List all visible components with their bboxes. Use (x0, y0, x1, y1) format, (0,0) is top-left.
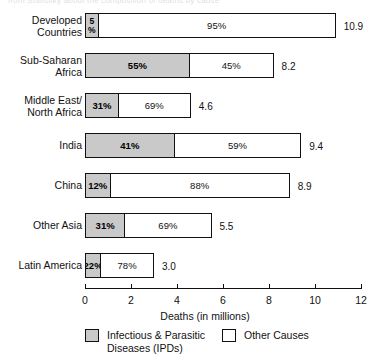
x-axis-tick (269, 284, 270, 289)
category-label: Sub-Saharan Africa (0, 55, 82, 78)
x-axis-tick (315, 284, 316, 289)
bar-segment-ipd: 31% (86, 214, 125, 237)
chart-row: Sub-Saharan Africa55%45%8.2 (0, 52, 382, 80)
category-label: Middle East/ North Africa (0, 95, 82, 118)
chart-row: Latin America22%78%3.0 (0, 252, 382, 280)
x-axis-title: Deaths (in millions) (0, 310, 382, 322)
chart-row: Other Asia31%69%5.5 (0, 212, 382, 240)
chart-row: China12%88%8.9 (0, 172, 382, 200)
x-axis-tick-label: 0 (82, 294, 88, 306)
row-total-value: 5.5 (220, 221, 234, 232)
stacked-bar: 22%78% (85, 253, 154, 278)
stacked-bar: 12%88% (85, 173, 290, 198)
x-axis-title-text: Deaths (in millions) (160, 310, 249, 322)
stacked-bar: 31%69% (85, 93, 191, 118)
row-total-value: 4.6 (199, 101, 213, 112)
legend-swatch-ipd-icon (85, 329, 99, 342)
x-axis-tick-label: 10 (309, 294, 321, 306)
bar-segment-ipd: 55% (86, 54, 190, 77)
row-total-value: 8.2 (282, 61, 296, 72)
category-label: Latin America (0, 260, 82, 272)
bar-segment-ipd: 31% (86, 94, 119, 117)
legend-label: Infectious & Parasitic Diseases (IPDs) (107, 329, 205, 354)
x-axis-tick-label: 6 (220, 294, 226, 306)
category-label: Other Asia (0, 220, 82, 232)
row-total-value: 3.0 (162, 261, 176, 272)
cropped-caption-text: from Statistiky about the composition of… (8, 0, 338, 8)
bar-segment-ipd: 12% (86, 174, 111, 197)
chart-legend: Infectious & Parasitic Diseases (IPDs)Ot… (0, 329, 382, 361)
bar-segment-other-causes: 69% (125, 214, 210, 237)
bar-segment-other-causes: 78% (101, 254, 153, 277)
category-label: China (0, 180, 82, 192)
bar-segment-ipd: 22% (86, 254, 101, 277)
x-axis-tick (361, 284, 362, 289)
bar-segment-other-causes: 59% (175, 134, 301, 157)
legend-item: Other Causes (222, 329, 309, 342)
chart-row: Middle East/ North Africa31%69%4.6 (0, 92, 382, 120)
chart-row: India41%59%9.4 (0, 132, 382, 160)
legend-swatch-other-icon (222, 329, 236, 342)
x-axis-tick (85, 284, 86, 289)
x-axis-tick (223, 284, 224, 289)
bar-segment-other-causes: 95% (99, 14, 335, 37)
stacked-bar-chart: from Statistiky about the composition of… (0, 0, 382, 361)
x-axis-tick-label: 4 (174, 294, 180, 306)
category-label: Developed Countries (0, 15, 82, 38)
bar-segment-other-causes: 45% (190, 54, 273, 77)
row-total-value: 9.4 (309, 141, 323, 152)
bar-segment-other-causes: 88% (111, 174, 289, 197)
stacked-bar: 31%69% (85, 213, 212, 238)
x-axis-tick (131, 284, 132, 289)
bar-segment-other-causes: 69% (119, 94, 190, 117)
legend-item: Infectious & Parasitic Diseases (IPDs) (85, 329, 205, 354)
legend-label: Other Causes (244, 329, 309, 342)
bar-segment-ipd: 41% (86, 134, 175, 157)
category-label: India (0, 140, 82, 152)
bar-segment-ipd: 5 % (86, 14, 99, 37)
stacked-bar: 5 %95% (85, 13, 336, 38)
x-axis-tick-label: 2 (128, 294, 134, 306)
row-total-value: 10.9 (344, 21, 363, 32)
x-axis-tick-label: 12 (355, 294, 367, 306)
stacked-bar: 55%45% (85, 53, 274, 78)
stacked-bar: 41%59% (85, 133, 301, 158)
x-axis-tick-label: 8 (266, 294, 272, 306)
chart-row: Developed Countries5 %95%10.9 (0, 12, 382, 40)
x-axis-tick (177, 284, 178, 289)
row-total-value: 8.9 (298, 181, 312, 192)
